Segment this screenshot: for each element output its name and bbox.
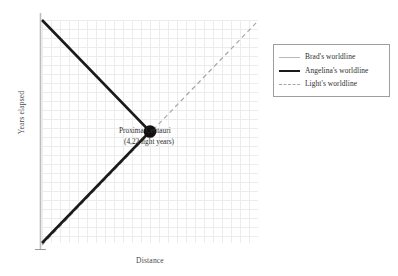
proxima-centauri-annotation: Proxima Centauri (4,22 light years): [119, 126, 174, 147]
legend-item-lights-worldline: Light's worldline: [279, 77, 383, 91]
legend-label-brad: Brad's worldline: [305, 52, 355, 61]
annotation-line-1: Proxima Centauri: [119, 126, 171, 135]
chart-legend: Brad's worldline Angelina's worldline Li…: [273, 44, 390, 97]
legend-label-light: Light's worldline: [305, 79, 357, 88]
worldlines-svg: [0, 0, 398, 276]
chart-figure: Years elapsed Distance Proxima Centauri …: [0, 0, 398, 276]
annotation-line-2: (4,22 light years): [119, 137, 174, 148]
legend-swatch-icon-angelina: [279, 65, 300, 75]
y-axis-label: Years elapsed: [17, 53, 26, 173]
legend-swatch-icon-brad: [279, 52, 300, 62]
legend-swatch-icon-light: [279, 79, 300, 89]
legend-item-angelinas-worldline: Angelina's worldline: [279, 64, 383, 78]
legend-item-brads-worldline: Brad's worldline: [279, 50, 383, 64]
x-axis-label: Distance: [42, 256, 258, 265]
legend-label-angelina: Angelina's worldline: [305, 66, 368, 75]
